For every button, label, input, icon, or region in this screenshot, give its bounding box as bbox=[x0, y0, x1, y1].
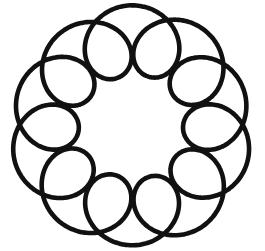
artboard: Spirograph rosette line drawing bbox=[0, 0, 265, 251]
rosette-drawing: Spirograph rosette line drawing bbox=[0, 0, 265, 251]
background bbox=[0, 0, 265, 251]
